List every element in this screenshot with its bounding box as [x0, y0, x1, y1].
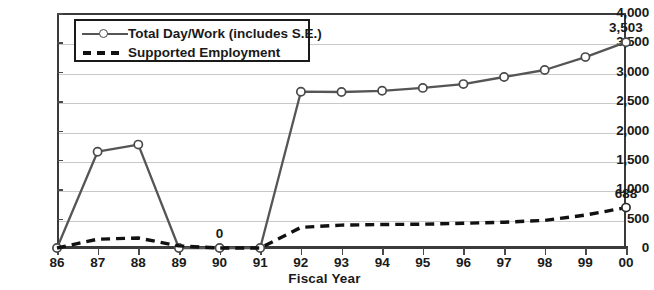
data-point-marker — [134, 141, 142, 149]
data-point-marker — [541, 66, 549, 74]
data-point-label: 3,503 — [598, 21, 654, 35]
data-point-marker — [622, 204, 630, 212]
data-point-marker — [378, 87, 386, 95]
data-point-marker — [581, 53, 589, 61]
data-point-marker — [94, 148, 102, 156]
data-point-marker — [337, 88, 345, 96]
legend-item-total-day-work: Total Day/Work (includes S.E.) — [82, 24, 308, 43]
data-point-marker — [297, 88, 305, 96]
data-point-label: 0 — [192, 227, 248, 241]
legend-item-label: Total Day/Work (includes S.E.) — [128, 27, 322, 41]
solid-line-marker-icon — [82, 27, 128, 41]
legend-item-supported-employment: Supported Employment — [82, 43, 308, 62]
legend-item-label: Supported Employment — [128, 46, 280, 60]
data-point-marker — [459, 80, 467, 88]
dashed-line-icon — [82, 46, 128, 60]
legend: Total Day/Work (includes S.E.) Supported… — [74, 19, 310, 62]
data-point-marker — [500, 73, 508, 81]
data-point-marker — [419, 84, 427, 92]
series-line-2 — [57, 208, 626, 248]
data-point-marker — [622, 38, 630, 46]
data-point-label: 688 — [598, 187, 654, 201]
